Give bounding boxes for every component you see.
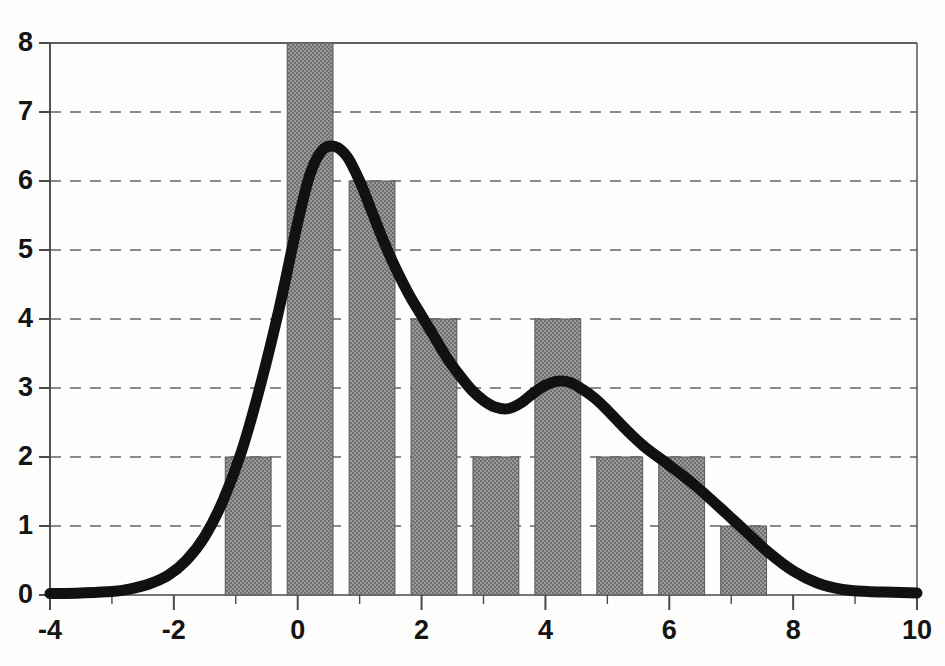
bar-rect xyxy=(535,319,581,595)
gridlines xyxy=(50,43,917,526)
ytick-label-7: 7 xyxy=(0,98,33,125)
xtick-label-6: 6 xyxy=(629,617,709,644)
chart-canvas: -1.3 to -0.3: 2-0.3 to 0.7: 80.7 to 1.7:… xyxy=(0,0,945,666)
ytick-label-2: 2 xyxy=(0,443,33,470)
xtick-label-0: 0 xyxy=(258,617,338,644)
ytick-label-8: 8 xyxy=(0,29,33,56)
histogram-bar: 4.7 to 5.7: 2 xyxy=(597,457,643,595)
ytick-label-6: 6 xyxy=(0,167,33,194)
xtick-label-10: 10 xyxy=(877,617,945,644)
bar-rect xyxy=(287,43,333,595)
ytick-label-1: 1 xyxy=(0,512,33,539)
histogram-bar: -0.3 to 0.7: 8 xyxy=(287,43,333,595)
bar-rect xyxy=(597,457,643,595)
ytick-label-3: 3 xyxy=(0,374,33,401)
bar-rect xyxy=(473,457,519,595)
xtick-label-4: 4 xyxy=(505,617,585,644)
histogram-bar: 3.7 to 4.7: 4 xyxy=(535,319,581,595)
ytick-label-4: 4 xyxy=(0,305,33,332)
histogram-density-figure: -1.3 to -0.3: 2-0.3 to 0.7: 80.7 to 1.7:… xyxy=(0,0,945,666)
xtick-label--4: -4 xyxy=(10,617,90,644)
xtick-label-2: 2 xyxy=(382,617,462,644)
histogram-bar: 2.7 to 3.7: 2 xyxy=(473,457,519,595)
ytick-label-0: 0 xyxy=(0,581,33,608)
xtick-label--2: -2 xyxy=(134,617,214,644)
xtick-label-8: 8 xyxy=(753,617,833,644)
ytick-label-5: 5 xyxy=(0,236,33,263)
